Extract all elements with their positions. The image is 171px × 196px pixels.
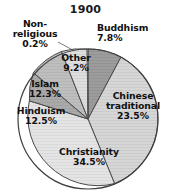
slice-label-nonreligious: Non- religious 0.2% [4,19,66,50]
slice-label-christianity-percent: 34.5% [51,157,127,167]
slice-label-other-percent: 9.2% [53,63,99,73]
slice-label-islam-percent: 12.3% [22,89,68,99]
slice-label-buddhism: Buddhism 7.8% [97,23,163,43]
slice-label-chinese-traditional: Chinese traditional 23.5% [98,91,168,122]
pie-chart-figure: 1900 [0,0,171,196]
slice-label-hinduism-percent: 12.5% [11,116,71,126]
slice-label-christianity: Christianity 34.5% [51,147,127,167]
slice-label-chinese-traditional-percent: 23.5% [98,111,168,121]
slice-label-islam: Islam 12.3% [22,79,68,99]
slice-label-buddhism-percent: 7.8% [97,33,163,43]
slice-label-other: Other 9.2% [53,53,99,73]
slice-label-hinduism: Hinduism 12.5% [11,106,71,126]
slice-label-nonreligious-percent: 0.2% [4,39,66,49]
